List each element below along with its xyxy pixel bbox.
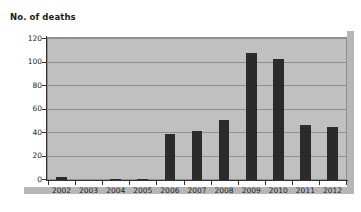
x-axis-tick-label: 2009 bbox=[242, 186, 261, 195]
x-axis-tick-mark bbox=[238, 181, 239, 185]
x-axis-tick-mark bbox=[129, 181, 130, 185]
x-axis-tick-label: 2002 bbox=[52, 186, 71, 195]
x-axis-tick-label: 2008 bbox=[215, 186, 234, 195]
x-axis-tick-mark bbox=[102, 181, 103, 185]
bar-2012 bbox=[327, 127, 338, 180]
bar-2006 bbox=[165, 134, 176, 180]
x-axis-tick-mark bbox=[156, 181, 157, 185]
x-axis-tick-label: 2006 bbox=[160, 186, 179, 195]
bars-layer bbox=[48, 38, 346, 180]
bar-chart-figure: No. of deaths 020406080100120 2002200320… bbox=[0, 0, 361, 212]
x-axis-tick-mark bbox=[48, 181, 49, 185]
y-axis-tick-label: 120 bbox=[16, 34, 42, 43]
y-axis-tick-label: 80 bbox=[16, 81, 42, 90]
y-axis-tick-label: 100 bbox=[16, 57, 42, 66]
y-axis-tick-label: 60 bbox=[16, 104, 42, 113]
y-axis-tick-mark bbox=[42, 109, 47, 110]
x-axis-tick-label: 2010 bbox=[269, 186, 288, 195]
x-axis-tick-mark bbox=[292, 181, 293, 185]
x-axis-tick-label: 2007 bbox=[187, 186, 206, 195]
y-axis-tick-mark bbox=[42, 38, 47, 39]
plot-shadow-right bbox=[347, 31, 354, 187]
y-axis-tick-mark bbox=[42, 85, 47, 86]
y-axis-tick-mark bbox=[42, 62, 47, 63]
x-axis-line bbox=[46, 180, 348, 181]
x-axis-tick-label: 2011 bbox=[296, 186, 315, 195]
y-axis-tick-label: 40 bbox=[16, 128, 42, 137]
y-axis-tick-mark bbox=[42, 132, 47, 133]
x-axis-tick-label: 2012 bbox=[323, 186, 342, 195]
x-axis-tick-label: 2005 bbox=[133, 186, 152, 195]
x-axis-tick-mark bbox=[319, 181, 320, 185]
bar-2009 bbox=[246, 53, 257, 180]
x-axis-tick-mark bbox=[75, 181, 76, 185]
x-axis-tick-mark bbox=[265, 181, 266, 185]
x-axis-tick-label: 2004 bbox=[106, 186, 125, 195]
x-axis-tick-mark bbox=[211, 181, 212, 185]
bar-2008 bbox=[219, 120, 230, 180]
x-axis-tick-mark bbox=[184, 181, 185, 185]
y-axis-tick-label: 20 bbox=[16, 151, 42, 160]
y-axis-tick-labels: 020406080100120 bbox=[12, 0, 42, 212]
bar-2010 bbox=[273, 59, 284, 180]
y-axis-tick-mark bbox=[42, 156, 47, 157]
x-axis-tick-mark bbox=[346, 181, 347, 185]
y-axis-tick-label: 0 bbox=[16, 175, 42, 184]
bar-2007 bbox=[192, 131, 203, 180]
bar-2011 bbox=[300, 125, 311, 180]
x-axis-tick-label: 2003 bbox=[79, 186, 98, 195]
